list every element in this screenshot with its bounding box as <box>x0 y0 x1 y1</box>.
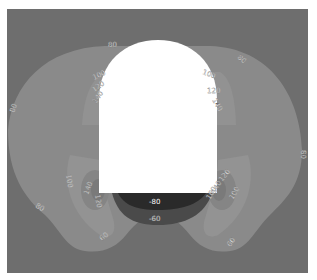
label-floor-lower: -60 <box>149 215 160 223</box>
label-80-top-left: 80 <box>108 41 117 49</box>
label-80-right: 80 <box>299 150 307 159</box>
tunnel-opening <box>99 40 217 193</box>
contour-plot: 80 80 80 80 100 120 140 100 120 140 100 … <box>0 0 317 280</box>
label-floor-upper: -80 <box>149 198 160 206</box>
label-120-upper-right: 120 <box>207 87 220 95</box>
